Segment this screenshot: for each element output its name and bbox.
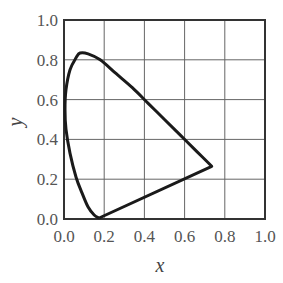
chromaticity-curve: [65, 53, 212, 218]
x-tick-label: 1.0: [254, 227, 275, 246]
x-axis-label: x: [155, 254, 165, 276]
y-tick-label: 0.8: [37, 51, 58, 70]
x-tick-label: 0.4: [134, 227, 156, 246]
y-axis-label: y: [4, 117, 27, 128]
chart: 0.00.20.40.60.81.0 0.00.20.40.60.81.0 x …: [0, 0, 283, 283]
x-tick-label: 0.6: [174, 227, 195, 246]
x-axis-ticks: 0.00.20.40.60.81.0: [53, 227, 275, 246]
x-tick-label: 0.2: [94, 227, 115, 246]
y-tick-label: 1.0: [37, 11, 58, 30]
y-tick-label: 0.6: [37, 91, 58, 110]
y-axis-ticks: 0.00.20.40.60.81.0: [37, 11, 59, 229]
y-tick-label: 0.4: [37, 130, 59, 149]
x-tick-label: 0.8: [214, 227, 235, 246]
y-tick-label: 0.0: [37, 210, 58, 229]
x-tick-label: 0.0: [53, 227, 74, 246]
y-tick-label: 0.2: [37, 170, 58, 189]
